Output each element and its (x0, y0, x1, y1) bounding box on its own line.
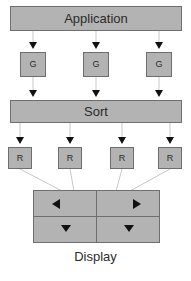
display-quadrant-top-right[interactable] (97, 191, 160, 217)
wire-r1-to-display (20, 169, 62, 191)
raster-label-4: R (167, 154, 174, 163)
geometry-label-1: G (29, 60, 36, 69)
arrowhead-sort-to-r4 (166, 137, 174, 144)
wire-r2-to-display (70, 169, 74, 191)
arrowhead-application-to-g3 (155, 42, 163, 49)
raster-box-3[interactable]: R (110, 147, 134, 169)
arrowhead-g2-to-sort (92, 90, 100, 97)
arrow-down-icon-left (61, 225, 71, 232)
wire-r4-to-display (130, 169, 170, 191)
raster-label-2: R (67, 154, 74, 163)
sort-label: Sort (84, 105, 108, 118)
arrowhead-sort-to-r1 (16, 137, 24, 144)
raster-box-4[interactable]: R (158, 147, 182, 169)
arrow-left-icon (52, 199, 60, 209)
geometry-label-3: G (155, 60, 162, 69)
arrowhead-g3-to-sort (155, 90, 163, 97)
display-quadrant-bottom-left[interactable] (34, 217, 97, 243)
application-box[interactable]: Application (10, 6, 182, 31)
raster-box-1[interactable]: R (8, 147, 32, 169)
arrowhead-application-to-g1 (29, 42, 37, 49)
display-quadrant-top-left[interactable] (34, 191, 97, 217)
wire-r3-to-display (116, 169, 122, 191)
application-label: Application (64, 12, 128, 25)
raster-box-2[interactable]: R (58, 147, 82, 169)
geometry-box-1[interactable]: G (20, 52, 46, 77)
arrow-down-icon-right (124, 225, 134, 232)
arrowhead-sort-to-r3 (118, 137, 126, 144)
display-label: Display (0, 249, 191, 264)
display-box[interactable] (33, 190, 160, 243)
diagram-canvas: Application G G G Sort R R R R (0, 0, 191, 281)
raster-label-1: R (17, 154, 24, 163)
geometry-box-3[interactable]: G (146, 52, 172, 77)
arrowhead-sort-to-r2 (66, 137, 74, 144)
raster-label-3: R (119, 154, 126, 163)
arrowhead-g1-to-sort (29, 90, 37, 97)
display-quadrant-bottom-right[interactable] (97, 217, 160, 243)
sort-box[interactable]: Sort (10, 100, 182, 123)
arrow-right-icon (133, 199, 141, 209)
geometry-label-2: G (92, 60, 99, 69)
geometry-box-2[interactable]: G (83, 52, 109, 77)
arrowhead-application-to-g2 (92, 42, 100, 49)
